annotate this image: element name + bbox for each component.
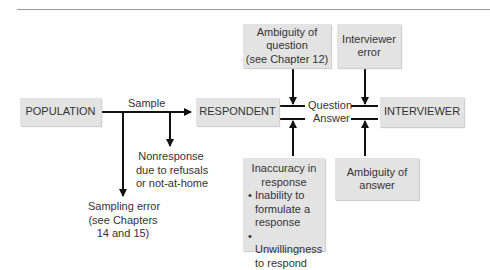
aa-line-1: Ambiguity of xyxy=(347,166,408,180)
population-label: POPULATION xyxy=(25,105,95,119)
respondent-box: RESPONDENT xyxy=(196,98,279,126)
ambiguity-of-answer-box: Ambiguity of answer xyxy=(335,158,419,200)
ir-title-2: response xyxy=(246,176,322,190)
respondent-label: RESPONDENT xyxy=(199,105,275,119)
ie-line-1: Interviewer xyxy=(342,33,396,47)
sampling-error-annotation: Sampling error (see Chapters 14 and 15) xyxy=(88,200,158,241)
question-label: Question xyxy=(308,99,352,113)
aq-line-1: Ambiguity of xyxy=(246,26,329,40)
population-box: POPULATION xyxy=(20,98,101,126)
answer-label: Answer xyxy=(313,112,350,126)
aq-line-2: question xyxy=(246,39,329,53)
aq-line-3: (see Chapter 12) xyxy=(246,53,329,67)
bullet-icon: • xyxy=(248,189,252,201)
bullet-icon: • xyxy=(248,230,252,242)
interviewer-label: INTERVIEWER xyxy=(384,105,460,119)
ir-bullet-1: • Inability to formulate a response xyxy=(246,189,322,230)
ir-bullet-2: • Unwillingness to respond xyxy=(246,230,322,270)
ir-title-1: Inaccuracy in xyxy=(246,162,322,176)
inaccuracy-in-response-box: Inaccuracy in response • Inability to fo… xyxy=(243,158,325,251)
aa-line-2: answer xyxy=(347,179,408,193)
nonresponse-annotation: Nonresponse due to refusals or not-at-ho… xyxy=(136,150,206,191)
interviewer-box: INTERVIEWER xyxy=(380,97,464,127)
ie-line-2: error xyxy=(342,46,396,60)
interviewer-error-box: Interviewer error xyxy=(337,24,401,68)
sample-label: Sample xyxy=(128,97,165,111)
ambiguity-of-question-box: Ambiguity of question (see Chapter 12) xyxy=(243,24,331,68)
